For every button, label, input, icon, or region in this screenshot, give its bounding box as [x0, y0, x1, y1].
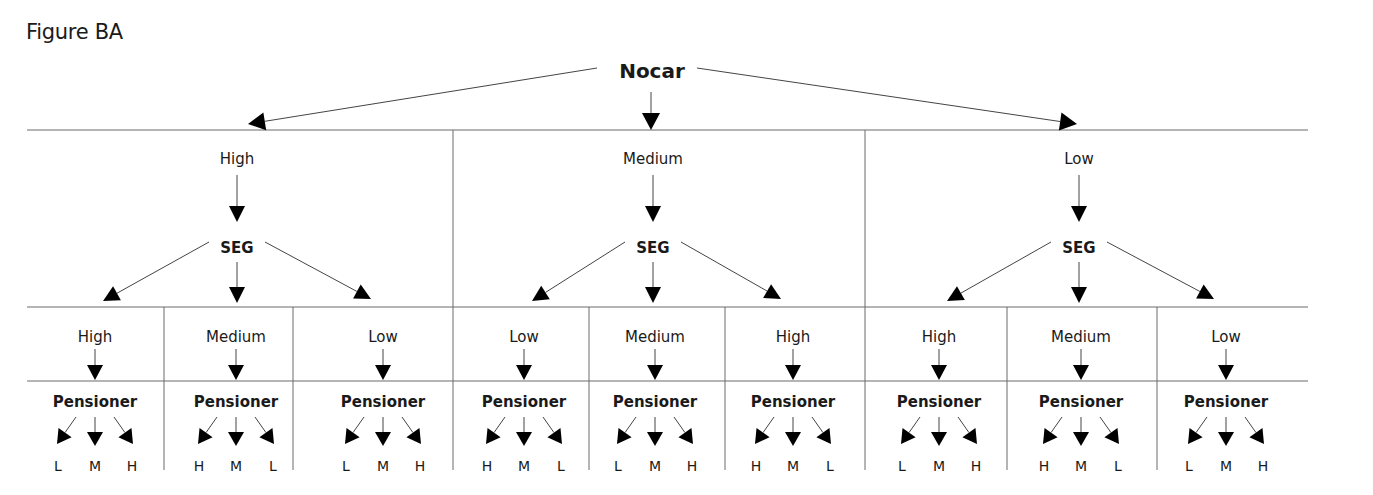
- edge-leaf-right: [1245, 417, 1264, 444]
- branch-label-low: Low: [1064, 150, 1094, 168]
- sub-label-high: High: [776, 328, 810, 346]
- arrowhead-icon: [901, 428, 916, 444]
- leaf-label: H: [1258, 458, 1269, 474]
- arrowhead-icon: [645, 206, 661, 222]
- edge-branch-to-seg: [229, 175, 245, 222]
- arrowhead-icon: [198, 428, 213, 444]
- leaf-label: L: [557, 458, 565, 474]
- leaf-label: M: [89, 458, 101, 474]
- edge-root-left: [248, 68, 597, 130]
- arrow-shaft: [117, 242, 209, 293]
- seg-node: SEG: [1062, 239, 1095, 257]
- edge-sub-to-pensioner: [375, 349, 391, 380]
- arrowhead-icon: [1218, 432, 1234, 446]
- arrowhead-icon: [259, 428, 274, 444]
- edge-sub-to-pensioner: [931, 349, 947, 380]
- arrow-shaft: [546, 242, 625, 292]
- arrowhead-icon: [345, 428, 360, 444]
- edge-seg-right: [265, 242, 371, 299]
- arrowhead-icon: [785, 365, 801, 380]
- arrowhead-icon: [947, 286, 965, 301]
- arrowhead-icon: [87, 365, 103, 380]
- edge-leaf-left: [198, 417, 217, 444]
- edge-leaf-middle: [1073, 417, 1089, 446]
- leaf-label: L: [1185, 458, 1193, 474]
- edge-leaf-left: [1188, 417, 1207, 444]
- arrow-shaft: [958, 417, 969, 433]
- edge-sub-to-pensioner: [1073, 349, 1089, 380]
- arrow-shaft: [114, 417, 125, 433]
- arrowhead-icon: [57, 428, 72, 444]
- leaf-label: L: [898, 458, 906, 474]
- edge-leaf-right: [674, 417, 693, 444]
- edge-sub-to-pensioner: [1218, 349, 1234, 380]
- pensioner-node: Pensioner: [482, 393, 567, 411]
- leaf-label: L: [826, 458, 834, 474]
- arrowhead-icon: [87, 432, 103, 446]
- edge-leaf-left: [57, 417, 76, 444]
- branch-label-high: High: [220, 150, 254, 168]
- edge-seg-middle: [1071, 262, 1087, 303]
- leaf-label: M: [787, 458, 799, 474]
- arrowhead-icon: [642, 113, 660, 130]
- arrow-shaft: [625, 417, 636, 433]
- edge-leaf-right: [958, 417, 977, 444]
- arrowhead-icon: [228, 432, 244, 446]
- arrowhead-icon: [532, 286, 550, 301]
- arrowhead-icon: [1071, 287, 1087, 303]
- leaf-label: L: [1114, 458, 1122, 474]
- edge-leaf-right: [543, 417, 562, 444]
- arrowhead-icon: [931, 365, 947, 380]
- edge-leaf-middle: [228, 417, 244, 446]
- arrowhead-icon: [678, 428, 693, 444]
- edge-leaf-middle: [647, 417, 663, 446]
- edge-root-middle: [642, 92, 660, 130]
- leaf-label: H: [971, 458, 982, 474]
- arrow-shaft: [65, 417, 76, 433]
- edge-leaf-right: [255, 417, 274, 444]
- edge-leaf-middle: [931, 417, 947, 446]
- pensioner-node: Pensioner: [897, 393, 982, 411]
- arrowhead-icon: [516, 365, 532, 380]
- pensioner-node: Pensioner: [1039, 393, 1124, 411]
- sub-label-medium: Medium: [206, 328, 266, 346]
- arrowhead-icon: [763, 284, 781, 299]
- leaf-label: M: [377, 458, 389, 474]
- arrowhead-icon: [103, 286, 121, 301]
- pensioner-node: Pensioner: [194, 393, 279, 411]
- arrowhead-icon: [228, 365, 244, 380]
- arrowhead-icon: [647, 365, 663, 380]
- tree-diagram: NocarHighSEGHighPensionerLMHMediumPensio…: [0, 0, 1373, 495]
- arrow-shaft: [697, 68, 1060, 122]
- leaf-label: L: [614, 458, 622, 474]
- edge-leaf-middle: [1218, 417, 1234, 446]
- arrowhead-icon: [118, 428, 133, 444]
- leaf-label: H: [751, 458, 762, 474]
- arrow-shaft: [681, 242, 767, 291]
- arrow-shaft: [265, 68, 597, 121]
- leaf-label: H: [127, 458, 138, 474]
- arrowhead-icon: [1188, 428, 1203, 444]
- leaf-label: L: [269, 458, 277, 474]
- arrow-shaft: [1245, 417, 1256, 433]
- arrowhead-icon: [547, 428, 562, 444]
- arrow-shaft: [206, 417, 217, 433]
- arrowhead-icon: [645, 287, 661, 303]
- arrow-shaft: [255, 417, 266, 433]
- arrow-shaft: [1196, 417, 1207, 433]
- arrow-shaft: [812, 417, 823, 433]
- sub-label-medium: Medium: [625, 328, 685, 346]
- pensioner-node: Pensioner: [1184, 393, 1269, 411]
- root-node-nocar: Nocar: [619, 59, 685, 83]
- edge-sub-to-pensioner: [785, 349, 801, 380]
- arrowhead-icon: [375, 365, 391, 380]
- edge-branch-to-seg: [645, 175, 661, 222]
- leaf-label: H: [687, 458, 698, 474]
- arrowhead-icon: [229, 206, 245, 222]
- arrowhead-icon: [647, 432, 663, 446]
- arrow-shaft: [402, 417, 413, 433]
- arrow-shaft: [265, 242, 357, 291]
- edge-leaf-left: [901, 417, 920, 444]
- edge-leaf-left: [486, 417, 505, 444]
- arrow-shaft: [1051, 417, 1062, 433]
